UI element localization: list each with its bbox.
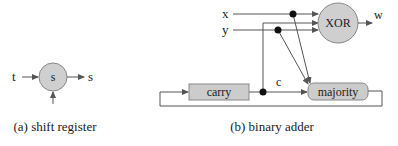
carry-label: carry	[207, 85, 232, 99]
c-junction-dot	[260, 89, 267, 96]
xor-label: XOR	[325, 16, 350, 30]
input-label: t	[12, 69, 16, 84]
w-label: w	[374, 8, 383, 22]
caption-b: (b) binary adder	[230, 119, 314, 134]
caption-a: (a) shift register	[13, 119, 97, 134]
binary-adder-figure: XOR w c carry majority x y (b) binary ad…	[160, 3, 383, 134]
x-junction-dot	[290, 11, 297, 18]
y-junction-dot	[275, 27, 282, 34]
output-label: s	[88, 69, 93, 84]
x-label: x	[222, 6, 229, 21]
c-label: c	[276, 75, 281, 89]
diagram-canvas: t s s (a) shift register XOR w c carry m…	[0, 0, 398, 146]
majority-label: majority	[318, 85, 359, 99]
y-label: y	[222, 22, 229, 37]
shift-register-figure: t s s (a) shift register	[12, 63, 97, 134]
node-label: s	[51, 70, 56, 84]
